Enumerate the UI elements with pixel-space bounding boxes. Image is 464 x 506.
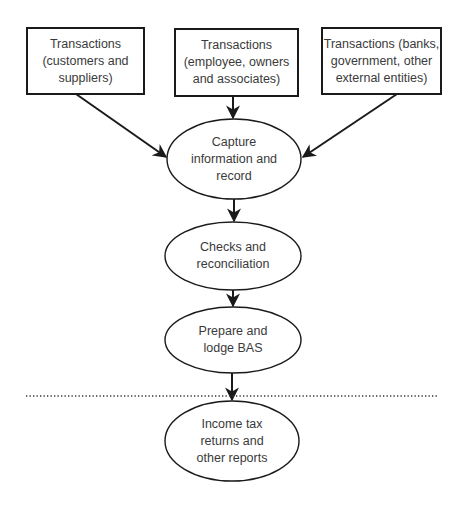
label-line: Transactions xyxy=(50,36,121,53)
arrow-external-to-capture xyxy=(303,94,397,157)
process-label-capture: Capture information and record xyxy=(167,119,301,199)
label-line: reconciliation xyxy=(197,256,270,273)
process-label-checks: Checks and reconciliation xyxy=(165,222,301,290)
label-line: government, other xyxy=(331,53,432,70)
label-line: Capture xyxy=(212,134,256,151)
label-line: Checks and xyxy=(200,239,266,256)
flowchart: Transactions (customers and suppliers) T… xyxy=(0,0,464,506)
label-line: (employee, owners xyxy=(184,54,290,71)
label-line: information and xyxy=(191,151,277,168)
label-line: external entities) xyxy=(336,70,428,87)
label-line: lodge BAS xyxy=(203,340,262,357)
process-label-income-tax: Income tax returns and other reports xyxy=(165,401,299,481)
source-label-employees: Transactions (employee, owners and assoc… xyxy=(175,29,298,96)
arrow-customers-to-capture xyxy=(76,94,166,157)
label-line: record xyxy=(216,168,251,185)
label-line: and associates) xyxy=(193,71,281,88)
label-line: Transactions (banks, xyxy=(324,36,440,53)
process-label-bas: Prepare and lodge BAS xyxy=(165,307,301,373)
label-line: Transactions xyxy=(201,37,272,54)
label-line: Prepare and xyxy=(199,323,268,340)
label-line: suppliers) xyxy=(58,70,112,87)
label-line: other reports xyxy=(197,450,268,467)
label-line: (customers and xyxy=(42,53,128,70)
source-label-customers: Transactions (customers and suppliers) xyxy=(27,28,144,94)
source-label-external: Transactions (banks, government, other e… xyxy=(322,28,441,94)
label-line: returns and xyxy=(200,433,263,450)
label-line: Income tax xyxy=(201,416,262,433)
